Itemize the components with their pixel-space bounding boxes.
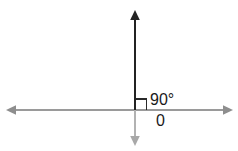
angle-diagram-canvas (0, 0, 238, 151)
arrow-down-icon (130, 136, 140, 146)
angle-diagram-figure: 90° 0 (0, 0, 238, 151)
origin-label: 0 (156, 113, 165, 129)
right-angle-label: 90° (150, 92, 174, 108)
arrow-left-icon (6, 105, 16, 115)
right-angle-marker-icon (136, 99, 147, 110)
arrow-right-icon (223, 105, 233, 115)
arrow-up-icon (130, 10, 140, 20)
